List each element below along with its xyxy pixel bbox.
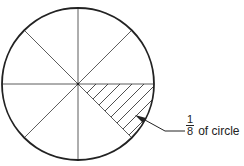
circle-diagram [0, 0, 244, 166]
fraction-numerator: 1 [186, 114, 194, 126]
center-point [77, 83, 80, 86]
fraction-denominator: 8 [187, 126, 193, 137]
fraction-label: 1 8 of circle [186, 112, 239, 138]
leader-arrow [145, 120, 185, 131]
label-text: of circle [198, 124, 239, 138]
fraction: 1 8 [186, 114, 194, 137]
